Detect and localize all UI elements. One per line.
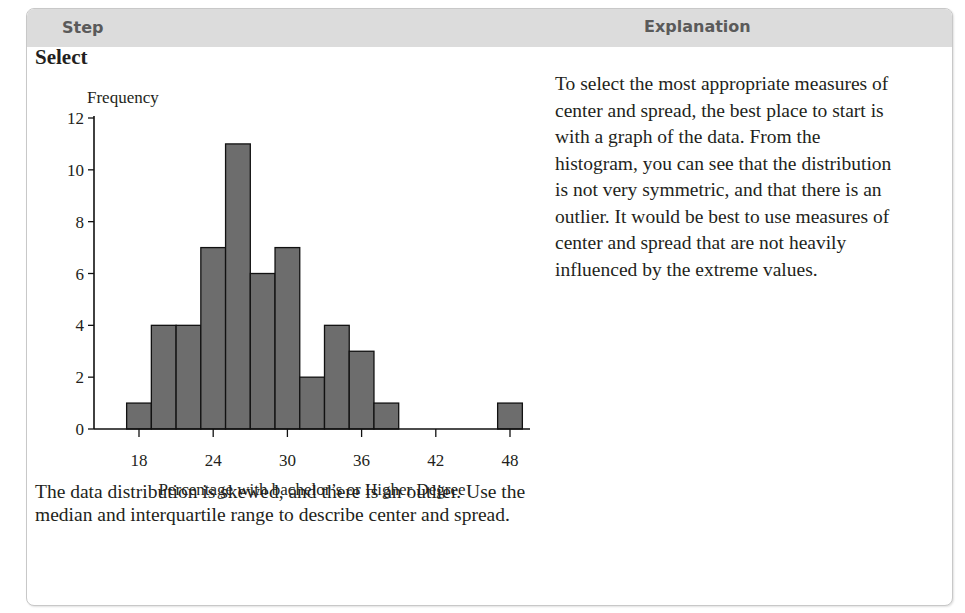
histogram-bar (127, 403, 152, 429)
x-tick-label: 24 (205, 451, 223, 470)
y-tick-label: 10 (67, 161, 84, 180)
histogram-bar (498, 403, 523, 429)
histogram-bar (349, 351, 374, 429)
x-tick-label: 36 (353, 451, 370, 470)
y-tick-label: 0 (76, 420, 85, 439)
y-tick-label: 4 (76, 316, 85, 335)
x-tick-label: 18 (131, 451, 148, 470)
x-tick-label: 48 (502, 451, 519, 470)
y-tick-label: 8 (76, 213, 85, 232)
histogram-bar (176, 325, 201, 429)
histogram-bar (226, 144, 251, 429)
histogram-bar (250, 274, 275, 430)
y-tick-label: 2 (76, 368, 85, 387)
histogram-bar (300, 377, 325, 429)
y-axis-label: Frequency (87, 88, 159, 107)
histogram-bar (275, 248, 300, 429)
histogram-bar (151, 325, 176, 429)
x-tick-label: 42 (427, 451, 444, 470)
explanation-text: To select the most appropriate measures … (555, 71, 905, 283)
histogram-bar (325, 325, 350, 429)
y-tick-label: 12 (67, 109, 84, 128)
x-tick-label: 30 (279, 451, 296, 470)
histogram-bar (374, 403, 399, 429)
histogram-bar (201, 248, 226, 429)
y-tick-label: 6 (76, 265, 85, 284)
step-summary: The data distribution is skewed, and the… (35, 480, 535, 526)
